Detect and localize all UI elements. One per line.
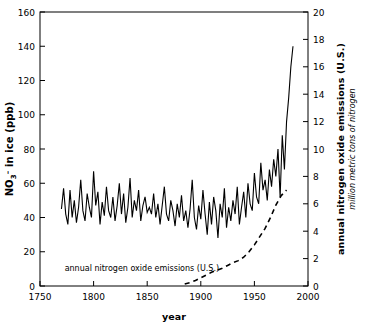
chart-annotations: annual nitrogen oxide emissions (U.S.) [65,264,219,273]
chart-svg: 175018001850190019502000 020406080100120… [0,0,367,329]
y-axis-left-label: NO3– in ice (ppb) [4,102,18,197]
y-axis-left-ticks [40,12,45,286]
y-tick-label-right: 14 [313,90,325,100]
y-tick-label-left: 60 [24,179,36,189]
y-axis-left-tick-labels: 020406080100120140160 [18,8,35,292]
x-tick-label: 1800 [82,292,105,302]
x-axis-tick-labels: 175018001850190019502000 [29,292,320,302]
x-tick-label: 1850 [136,292,159,302]
x-tick-label: 1750 [29,292,52,302]
chart-annotation-0: annual nitrogen oxide emissions (U.S.) [65,264,219,273]
y-tick-label-right: 8 [313,172,319,182]
y-axis-right-tick-labels: 02468101214161820 [313,8,325,292]
y-tick-label-left: 20 [24,247,36,257]
y-tick-label-left: 120 [18,76,35,86]
y-tick-label-right: 12 [313,117,324,127]
y-tick-label-left: 40 [24,213,36,223]
x-axis-label: year [162,311,186,322]
y-tick-label-left: 140 [18,42,35,52]
x-tick-label: 2000 [297,292,320,302]
y-tick-label-right: 4 [313,227,319,237]
y-tick-label-right: 2 [313,254,319,264]
y-tick-label-right: 20 [313,8,325,18]
y-axis-right-label: annual nitrogen oxide emissions (U.S.) [335,43,346,255]
y-tick-label-right: 10 [313,145,325,155]
y-axis-right-sublabel: million metric tons of nitrogen [348,88,357,209]
y-axis-right-ticks [303,12,308,286]
series-line-0 [61,46,293,238]
x-axis-ticks [40,281,308,286]
y-tick-label-left: 100 [18,110,35,120]
y-tick-label-right: 18 [313,35,325,45]
plot-frame [40,12,308,286]
chart-figure: 175018001850190019502000 020406080100120… [0,0,367,329]
x-tick-label: 1900 [189,292,212,302]
y-tick-label-right: 16 [313,62,325,72]
x-tick-label: 1950 [243,292,266,302]
y-tick-label-right: 6 [313,199,319,209]
y-tick-label-left: 80 [24,145,36,155]
y-tick-label-left: 0 [29,282,35,292]
data-series-group [61,46,293,284]
y-tick-label-left: 160 [18,8,35,18]
y-tick-label-right: 0 [313,282,319,292]
